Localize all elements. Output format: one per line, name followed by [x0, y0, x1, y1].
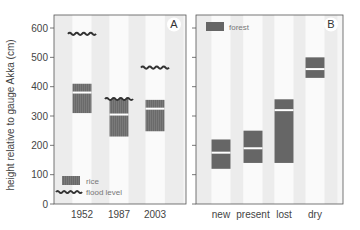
background-stripe — [337, 15, 343, 204]
legend-label-flood-level: flood level — [86, 188, 122, 197]
legend-swatch-forest — [206, 22, 224, 31]
x-tick-label: 1987 — [108, 209, 131, 220]
range-bar-lost — [275, 99, 294, 163]
bar-median-line — [110, 114, 129, 116]
range-bar-present — [244, 131, 263, 163]
y-tick-label: 300 — [31, 111, 48, 122]
panel-a: 195219872003Ariceflood level — [50, 15, 186, 220]
range-bar-new — [212, 139, 231, 168]
panel-b: newpresentlostdryBforest — [192, 15, 343, 220]
panel-label: A — [170, 18, 178, 30]
bar-median-line — [275, 109, 294, 111]
x-tick-label: dry — [308, 209, 322, 220]
y-tick-label: 500 — [31, 52, 48, 63]
x-tick-label: 1952 — [71, 209, 94, 220]
bar-median-line — [306, 68, 325, 70]
bar-median-line — [244, 147, 263, 149]
bar-median-line — [212, 152, 231, 154]
range-bar-1987 — [110, 99, 129, 137]
category-column — [244, 15, 263, 204]
range-bar-dry — [306, 57, 325, 78]
legend-swatch-flood-level — [56, 191, 82, 193]
category-column — [212, 15, 231, 204]
legend-swatch-rice — [62, 176, 80, 185]
y-tick-label: 600 — [31, 23, 48, 34]
legend-label-rice: rice — [86, 177, 99, 186]
y-tick-label: 0 — [42, 199, 48, 210]
y-tick-label: 400 — [31, 81, 48, 92]
chart-figure: 195219872003Ariceflood level newpresentl… — [0, 0, 360, 230]
bar-median-line — [73, 92, 92, 94]
y-axis: 0100200300400500600 — [31, 23, 48, 210]
x-tick-label: 2003 — [144, 209, 167, 220]
category-column — [306, 15, 325, 204]
y-axis-label: height relative to gauge Akka (cm) — [5, 39, 16, 190]
y-tick-label: 200 — [31, 140, 48, 151]
bar-median-line — [146, 108, 165, 110]
range-bar-1952 — [73, 84, 92, 113]
x-tick-label: present — [236, 209, 270, 220]
x-tick-label: new — [212, 209, 231, 220]
legend-label-forest: forest — [229, 23, 250, 32]
range-bar-2003 — [146, 100, 165, 131]
y-tick-label: 100 — [31, 169, 48, 180]
chart-svg: 195219872003Ariceflood level newpresentl… — [0, 0, 360, 230]
x-tick-label: lost — [276, 209, 292, 220]
panel-label: B — [327, 18, 334, 30]
